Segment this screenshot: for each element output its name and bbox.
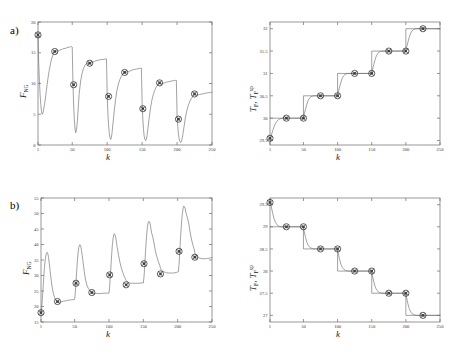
y-tick-label: 32 [263,26,268,31]
y-tick-label: 15 [34,320,39,325]
x-tick-label: 250 [209,324,217,329]
x-tick-label: 1 [269,147,272,152]
chart-svg-a-left: 05101520150100150200250 [38,22,212,145]
chart-svg-a-right: 29.53030.53131.532150100150200250 [270,22,440,145]
x-axis-label-a-right: k [318,152,358,162]
y-axis-label-b-right: TF, TFsp [248,265,259,291]
x-tick-label: 1 [37,147,40,152]
plot-area-a-left: 05101520150100150200250 [38,22,212,145]
x-tick-label: 200 [174,324,182,329]
data-marker [107,272,113,278]
y-tick-label: 30 [263,116,268,121]
y-tick-label: 31.5 [259,49,268,54]
x-tick-label: 1 [269,324,272,329]
y-tick-label: 40 [34,242,39,247]
y-tick-label: 27.5 [259,291,268,296]
x-tick-label: 50 [72,324,77,329]
y-tick-label: 27 [263,313,268,318]
data-marker [54,298,60,304]
data-marker [89,289,95,295]
chart-svg-b-right: 2727.52828.52929.5150100150200250 [270,198,440,322]
x-tick-label: 200 [402,147,410,152]
x-tick-label: 150 [368,147,376,152]
plot-frame [270,22,440,145]
y-tick-label: 28 [263,269,268,274]
panel-b-left: 152025303540455055150100150200250 FNG k [0,179,227,358]
y-tick-label: 29 [263,224,268,229]
data-marker [191,91,197,97]
panel-a-left: 05101520150100150200250 FNG k [0,0,227,179]
plot-frame [41,198,212,322]
y-tick-label: 10 [31,81,36,86]
x-tick-label: 150 [139,147,147,152]
x-tick-label: 150 [140,324,148,329]
y-tick-label: 25 [34,289,39,294]
data-marker [192,254,198,260]
figure-row-b: b) 152025303540455055150100150200250 FNG… [0,179,455,358]
plot-area-b-left: 152025303540455055150100150200250 [41,198,212,322]
x-tick-label: 250 [437,147,445,152]
x-tick-label: 50 [70,147,75,152]
data-marker [157,271,163,277]
y-tick-label: 20 [31,20,36,25]
x-tick-label: 200 [174,147,182,152]
x-tick-label: 200 [402,324,410,329]
x-tick-label: 1 [40,324,43,329]
plot-area-a-right: 29.53030.53131.532150100150200250 [270,22,440,145]
data-marker [71,82,77,88]
y-tick-label: 0 [33,143,36,148]
y-tick-label: 30 [34,273,39,278]
x-tick-label: 250 [437,324,445,329]
x-tick-label: 150 [368,324,376,329]
data-marker [140,106,146,112]
x-tick-label: 50 [301,324,306,329]
y-tick-label: 28.5 [259,247,268,252]
y-tick-label: 45 [34,227,39,232]
data-series-line [38,35,212,143]
panel-b-right: 2727.52828.52929.5150100150200250 TF, TF… [228,179,455,358]
y-axis-label-b-left: FNG [21,261,32,275]
data-marker [141,261,147,267]
x-tick-label: 50 [301,147,306,152]
y-axis-label-a-right: TF, TFsp [248,86,259,112]
y-tick-label: 15 [31,50,36,55]
y-tick-label: 55 [34,196,39,201]
y-tick-label: 30.5 [259,94,268,99]
plot-frame [270,198,440,322]
data-series-line [270,29,440,139]
data-marker [105,93,111,99]
y-tick-label: 35 [34,258,39,263]
data-series-line [270,202,440,315]
y-tick-label: 50 [34,211,39,216]
plot-frame [38,22,212,145]
y-tick-label: 5 [33,112,36,117]
x-axis-label-a-left: k [88,152,128,162]
data-series-line [41,206,212,313]
y-tick-label: 20 [34,304,39,309]
plot-area-b-right: 2727.52828.52929.5150100150200250 [270,198,440,322]
chart-svg-b-left: 152025303540455055150100150200250 [41,198,212,322]
data-marker [175,116,181,122]
x-axis-label-b-right: k [318,329,358,339]
x-axis-label-b-left: k [88,329,128,339]
y-axis-label-a-left: FNG [18,84,29,98]
y-tick-label: 31 [263,71,268,76]
data-marker [176,248,182,254]
data-marker [156,80,162,86]
x-tick-label: 250 [209,147,217,152]
figure-row-a: a) 05101520150100150200250 FNG k 29.5303… [0,0,455,179]
panel-a-right: 29.53030.53131.532150100150200250 TF, TF… [228,0,455,179]
data-marker [123,282,129,288]
figure-root: a) 05101520150100150200250 FNG k 29.5303… [0,0,455,359]
